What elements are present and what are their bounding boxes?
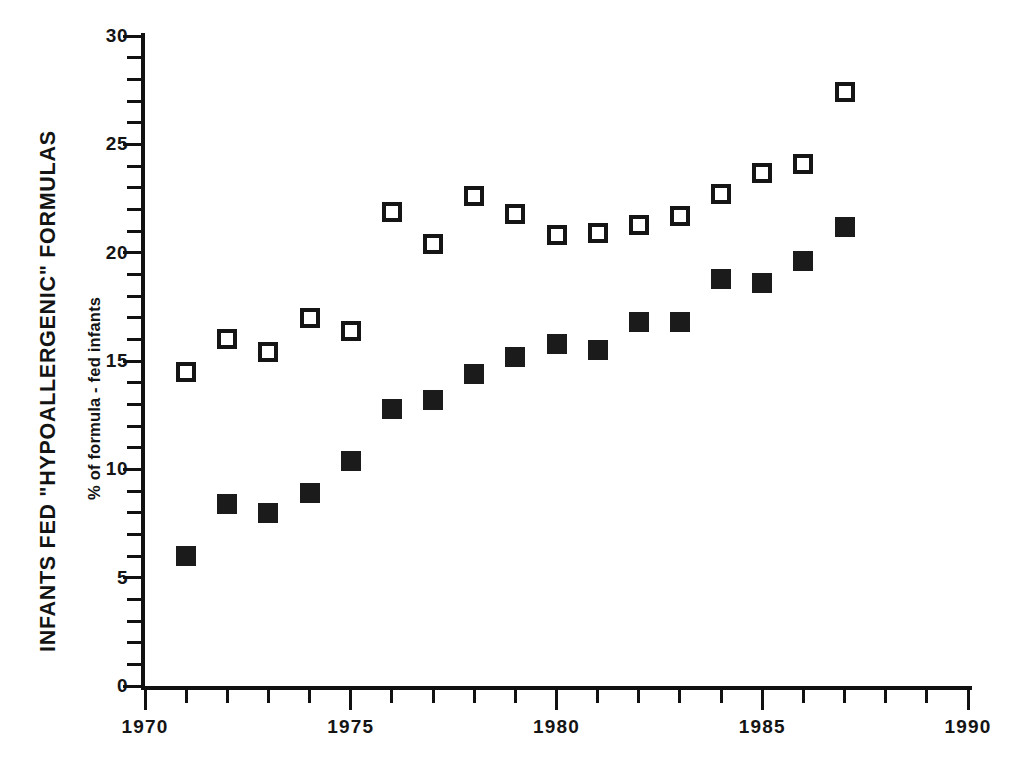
chart-title: INFANTS FED "HYPOALLERGENIC" FORMULAS xyxy=(38,130,60,652)
x-axis-minor-tick xyxy=(884,690,887,703)
data-point-open-square xyxy=(835,82,855,102)
y-axis-minor-tick xyxy=(127,663,141,666)
data-point-filled-square xyxy=(464,364,484,384)
y-axis-minor-tick xyxy=(127,230,141,233)
y-axis-major-tick xyxy=(123,468,141,471)
data-point-open-square xyxy=(711,184,731,204)
x-axis-minor-tick xyxy=(514,690,517,703)
data-point-filled-square xyxy=(835,217,855,237)
x-axis-tick-label: 1990 xyxy=(944,716,991,738)
x-axis-minor-tick xyxy=(473,690,476,703)
data-point-filled-square xyxy=(588,340,608,360)
data-point-filled-square xyxy=(423,390,443,410)
x-axis-minor-tick xyxy=(185,690,188,703)
y-axis-major-tick xyxy=(123,35,141,38)
y-axis-minor-tick xyxy=(127,511,141,514)
y-axis-major-tick xyxy=(123,576,141,579)
y-axis-minor-tick xyxy=(127,381,141,384)
x-axis-minor-tick xyxy=(843,690,846,703)
data-point-filled-square xyxy=(793,251,813,271)
data-point-open-square xyxy=(217,329,237,349)
data-point-filled-square xyxy=(258,503,278,523)
y-axis-minor-tick xyxy=(127,425,141,428)
x-axis-minor-tick xyxy=(390,690,393,703)
x-axis-tick-label: 1975 xyxy=(327,716,374,738)
y-axis-minor-tick xyxy=(127,555,141,558)
data-point-filled-square xyxy=(341,451,361,471)
data-point-open-square xyxy=(670,206,690,226)
x-axis-minor-tick xyxy=(226,690,229,703)
y-axis-minor-tick xyxy=(127,316,141,319)
y-axis-minor-tick xyxy=(127,533,141,536)
data-point-filled-square xyxy=(382,399,402,419)
data-point-filled-square xyxy=(505,347,525,367)
y-axis-minor-tick xyxy=(127,273,141,276)
y-axis-minor-tick xyxy=(127,446,141,449)
y-axis-minor-tick xyxy=(127,403,141,406)
x-axis-major-tick xyxy=(761,690,764,710)
data-point-filled-square xyxy=(711,269,731,289)
data-point-open-square xyxy=(505,204,525,224)
y-axis-minor-tick xyxy=(127,165,141,168)
data-point-open-square xyxy=(793,154,813,174)
y-axis-minor-tick xyxy=(127,295,141,298)
x-axis-tick-label: 1980 xyxy=(533,716,580,738)
chart-figure: INFANTS FED "HYPOALLERGENIC" FORMULAS % … xyxy=(0,0,1012,770)
x-axis-minor-tick xyxy=(267,690,270,703)
x-axis-minor-tick xyxy=(432,690,435,703)
y-axis-minor-tick xyxy=(127,100,141,103)
x-axis-major-tick xyxy=(555,690,558,710)
y-axis-minor-tick xyxy=(127,338,141,341)
data-point-filled-square xyxy=(752,273,772,293)
data-point-open-square xyxy=(547,225,567,245)
data-point-open-square xyxy=(300,308,320,328)
data-point-filled-square xyxy=(217,494,237,514)
x-axis-tick-labels: 19701975198019851990 xyxy=(145,716,968,742)
data-point-open-square xyxy=(382,202,402,222)
y-axis-minor-tick xyxy=(127,620,141,623)
x-axis-minor-tick xyxy=(596,690,599,703)
data-point-filled-square xyxy=(300,483,320,503)
y-axis-line xyxy=(141,33,145,689)
data-point-filled-square xyxy=(670,312,690,332)
x-axis-minor-tick xyxy=(720,690,723,703)
y-axis-minor-tick xyxy=(127,490,141,493)
data-point-open-square xyxy=(629,215,649,235)
y-axis-minor-tick xyxy=(127,208,141,211)
data-point-open-square xyxy=(176,362,196,382)
x-axis-tick-label: 1970 xyxy=(121,716,168,738)
data-point-open-square xyxy=(341,321,361,341)
y-axis-minor-tick xyxy=(127,56,141,59)
data-point-filled-square xyxy=(176,546,196,566)
data-point-open-square xyxy=(258,342,278,362)
y-axis-minor-tick xyxy=(127,78,141,81)
x-axis-minor-tick xyxy=(308,690,311,703)
x-axis-major-tick xyxy=(967,690,970,710)
data-point-open-square xyxy=(752,163,772,183)
y-axis-major-tick xyxy=(123,685,141,688)
y-axis-minor-tick xyxy=(127,641,141,644)
y-axis-major-tick xyxy=(123,251,141,254)
data-point-open-square xyxy=(588,223,608,243)
y-axis-minor-tick xyxy=(127,121,141,124)
y-axis-major-tick xyxy=(123,360,141,363)
data-point-filled-square xyxy=(547,334,567,354)
data-point-open-square xyxy=(464,186,484,206)
x-axis-minor-tick xyxy=(637,690,640,703)
data-point-filled-square xyxy=(629,312,649,332)
x-axis-minor-tick xyxy=(678,690,681,703)
x-axis-tick-label: 1985 xyxy=(739,716,786,738)
x-axis-major-tick xyxy=(349,690,352,710)
x-axis-minor-tick xyxy=(802,690,805,703)
plot-area xyxy=(145,36,968,686)
x-axis-major-tick xyxy=(144,690,147,710)
y-axis-minor-tick xyxy=(127,186,141,189)
data-point-open-square xyxy=(423,234,443,254)
y-axis-major-tick xyxy=(123,143,141,146)
y-axis-minor-tick xyxy=(127,598,141,601)
x-axis-minor-tick xyxy=(925,690,928,703)
